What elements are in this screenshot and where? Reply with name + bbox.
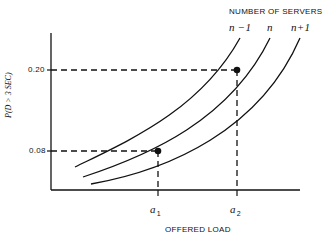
x-tick-a1: a1: [150, 203, 161, 215]
label-n-minus-1: n −1: [229, 21, 251, 33]
point-a2: [234, 67, 241, 74]
label-n-plus-1: n+1: [291, 21, 310, 33]
y-axis-label: P(D > 3 SEC): [4, 72, 13, 118]
chart-plot: [0, 0, 328, 247]
y-tick-0.20: 0.20: [28, 65, 45, 74]
y-tick-0.08: 0.08: [29, 146, 46, 155]
label-n: n: [267, 21, 273, 33]
guide-lines: [51, 70, 237, 190]
x-tick-a2: a2: [230, 203, 241, 215]
curve-n: [83, 38, 270, 177]
x-axis-label: OFFERED LOAD: [165, 225, 231, 234]
curve-n-minus-1: [75, 38, 240, 167]
point-a1: [155, 148, 162, 155]
legend-title: NUMBER OF SERVERS: [229, 7, 322, 16]
